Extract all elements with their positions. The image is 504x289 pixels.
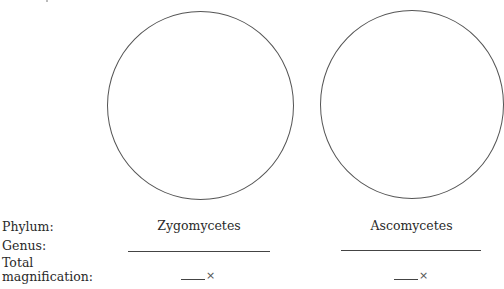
drawing-circle-zygomycetes[interactable] xyxy=(107,11,294,200)
times-symbol: × xyxy=(206,270,215,282)
genus-blank-ascomycetes[interactable] xyxy=(341,250,481,251)
magnification-blank[interactable] xyxy=(181,279,205,280)
total-magnification-label: Total magnification: xyxy=(2,256,102,284)
magnification-field-ascomycetes[interactable]: × xyxy=(394,268,428,282)
cropped-text-fragment xyxy=(46,0,48,2)
times-symbol: × xyxy=(419,270,428,282)
genus-blank-zygomycetes[interactable] xyxy=(128,251,270,252)
phylum-value-zygomycetes: Zygomycetes xyxy=(128,219,270,233)
genus-label: Genus: xyxy=(2,239,46,253)
magnification-blank[interactable] xyxy=(394,279,418,280)
magnification-field-zygomycetes[interactable]: × xyxy=(181,268,215,282)
drawing-circle-ascomycetes[interactable] xyxy=(320,10,504,199)
phylum-label: Phylum: xyxy=(2,220,54,234)
phylum-value-ascomycetes: Ascomycetes xyxy=(341,219,482,233)
